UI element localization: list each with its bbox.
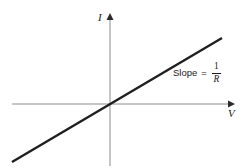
- slope-annotation-word: Slope: [173, 68, 197, 78]
- slope-fraction: 1 R: [212, 62, 221, 84]
- iv-characteristic-figure: I V Slope = 1 R: [0, 0, 247, 168]
- slope-fraction-numerator: 1: [213, 62, 220, 73]
- ohms-law-line: [12, 38, 222, 162]
- voltage-axis: [12, 101, 235, 108]
- slope-fraction-denominator: R: [212, 74, 220, 85]
- current-axis-label: I: [98, 12, 102, 23]
- plot-canvas: [0, 0, 247, 168]
- slope-annotation: Slope = 1 R: [173, 62, 221, 84]
- current-axis-arrow-icon: [107, 13, 114, 20]
- voltage-axis-label: V: [228, 108, 235, 119]
- slope-annotation-equals: =: [201, 68, 207, 78]
- current-axis: [107, 13, 114, 166]
